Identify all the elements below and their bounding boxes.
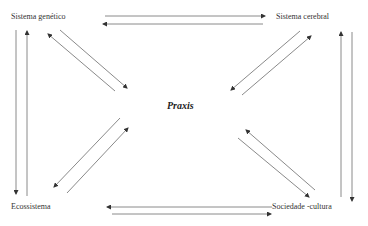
- node-ecossistema: Ecossistema: [11, 203, 51, 211]
- arrow-cerebral-to-praxis: [231, 31, 300, 90]
- node-sistema-genetico: Sistema genético: [11, 13, 65, 21]
- node-sistema-cerebral: Sistema cerebral: [276, 13, 329, 21]
- arrow-praxis-to-ecossistema: [54, 118, 120, 187]
- arrow-ecossistema-to-praxis: [67, 128, 128, 193]
- arrows-layer: [0, 0, 368, 226]
- arrow-praxis-to-sociedade: [238, 138, 309, 197]
- arrow-praxis-to-genetico: [48, 34, 115, 91]
- arrow-sociedade-to-praxis: [246, 130, 315, 190]
- diagram-canvas: Sistema genético Sistema cerebral Ecossi…: [0, 0, 368, 226]
- node-sociedade-cultura: Sociedade -cultura: [272, 203, 332, 211]
- arrow-praxis-to-cerebral: [242, 36, 311, 95]
- center-praxis: Praxis: [167, 101, 194, 111]
- arrow-genetico-to-praxis: [60, 30, 127, 88]
